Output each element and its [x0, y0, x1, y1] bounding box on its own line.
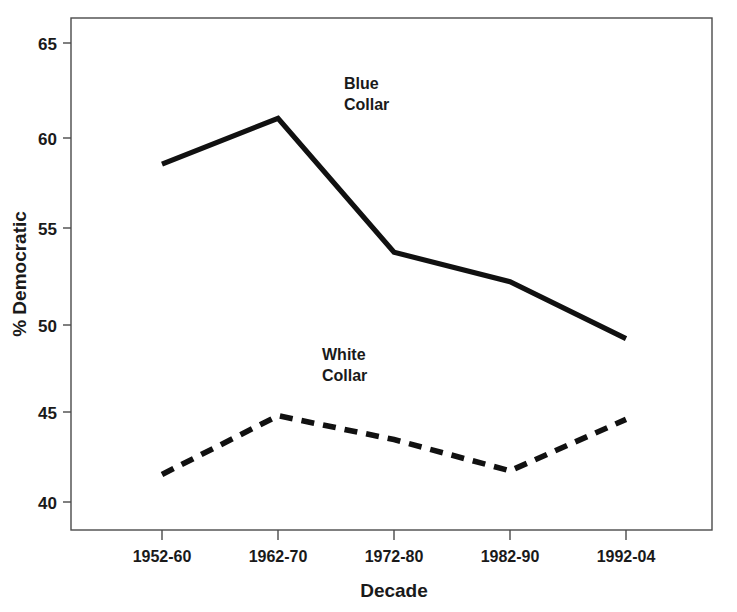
x-tick-label-0: 1952-60 — [133, 548, 192, 565]
y-tick-label-60: 60 — [38, 130, 57, 149]
annotation-blue-collar-line2: Collar — [344, 96, 389, 113]
annotation-blue-collar: Blue Collar — [344, 75, 389, 113]
annotation-white-collar-line2: Collar — [322, 367, 367, 384]
y-axis-ticks — [63, 43, 71, 502]
line-chart-figure: 40 45 50 55 60 65 % Democratic 1952-60 1… — [0, 0, 737, 612]
y-tick-label-40: 40 — [38, 494, 57, 513]
annotation-blue-collar-line1: Blue — [344, 75, 379, 92]
x-axis-ticks — [162, 530, 626, 540]
y-axis-title: % Democratic — [9, 211, 30, 337]
annotation-white-collar-line1: White — [322, 346, 366, 363]
x-axis-title: Decade — [360, 580, 428, 601]
y-tick-label-50: 50 — [38, 317, 57, 336]
plot-frame — [71, 18, 712, 530]
x-axis-tick-labels: 1952-60 1962-70 1972-80 1982-90 1992-04 — [133, 548, 656, 565]
x-tick-label-4: 1992-04 — [597, 548, 656, 565]
x-tick-label-3: 1982-90 — [481, 548, 540, 565]
x-tick-label-2: 1972-80 — [365, 548, 424, 565]
annotation-white-collar: White Collar — [322, 346, 367, 384]
y-tick-label-45: 45 — [38, 404, 57, 423]
series-line-blue-collar — [162, 118, 626, 338]
y-tick-label-55: 55 — [38, 220, 57, 239]
chart-canvas: 40 45 50 55 60 65 % Democratic 1952-60 1… — [0, 0, 737, 612]
y-tick-label-65: 65 — [38, 35, 57, 54]
y-axis-tick-labels: 40 45 50 55 60 65 — [38, 35, 57, 513]
series-line-white-collar — [162, 416, 626, 475]
x-tick-label-1: 1962-70 — [249, 548, 308, 565]
